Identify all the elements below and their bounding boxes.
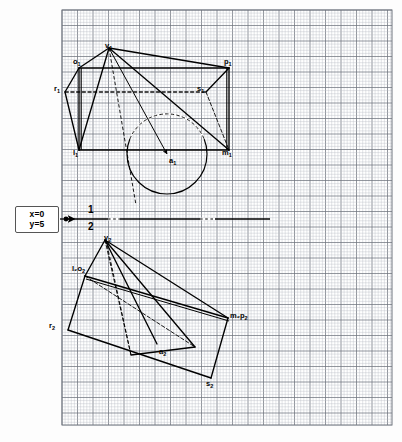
label-o1: o1	[73, 58, 81, 66]
label-m1-subscript: 1	[229, 152, 232, 158]
label-s2: s2	[206, 380, 213, 388]
label-p1-text: p	[224, 57, 229, 66]
label-s1-subscript: 1	[201, 88, 204, 94]
callout-line-y: y=5	[29, 220, 44, 230]
label-r1: r1	[54, 85, 60, 93]
label-a2: a2	[159, 348, 166, 356]
label-v2: v2	[104, 234, 111, 242]
label-o1-subscript: 1	[78, 61, 81, 67]
label-m2p2-subscript: 2	[245, 315, 248, 321]
label-l2o2: l₂o2	[72, 265, 85, 273]
drawing-sheet: x=0 y=5 1 2 v1o1p1r1s1l1m1a1v2l₂o2r2m₂p2…	[0, 0, 402, 442]
label-v2-subscript: 2	[108, 237, 111, 243]
fold-line-label-bottom: 2	[88, 222, 94, 232]
label-a2-subscript: 2	[163, 351, 166, 357]
label-l1-subscript: 1	[75, 152, 78, 158]
label-p1-subscript: 1	[229, 61, 232, 67]
label-s1: s1	[197, 85, 204, 93]
label-m1-text: m	[222, 148, 229, 157]
label-m1: m1	[222, 149, 232, 157]
label-l2o2-text: l₂o	[72, 264, 82, 273]
label-r2: r2	[49, 322, 55, 330]
label-v1: v1	[105, 42, 112, 50]
label-a1-subscript: 1	[173, 160, 176, 166]
label-a1: a1	[169, 157, 176, 165]
label-r2-subscript: 2	[52, 325, 55, 331]
label-v1-subscript: 1	[109, 45, 112, 51]
label-s2-subscript: 2	[210, 383, 213, 389]
label-m2p2-text: m₂p	[230, 311, 245, 320]
coordinate-callout: x=0 y=5	[15, 206, 59, 233]
label-p1: p1	[224, 58, 232, 66]
label-r1-subscript: 1	[57, 88, 60, 94]
label-m2p2: m₂p2	[230, 312, 248, 320]
label-l2o2-subscript: 2	[82, 268, 85, 274]
technical-drawing-canvas	[0, 0, 402, 442]
label-o1-text: o	[73, 57, 78, 66]
fold-line-label-top: 1	[88, 205, 94, 215]
label-l1: l1	[73, 149, 78, 157]
